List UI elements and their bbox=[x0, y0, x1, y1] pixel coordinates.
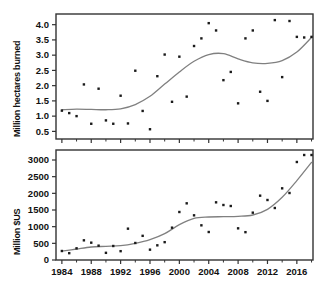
trend-line bbox=[62, 37, 312, 109]
data-point bbox=[141, 110, 143, 112]
data-point bbox=[222, 79, 224, 81]
bottom-panel: 0500100015002000250030001984198819921996… bbox=[0, 148, 329, 302]
data-point bbox=[259, 91, 261, 93]
data-point bbox=[171, 226, 173, 228]
data-point bbox=[127, 122, 129, 124]
data-point bbox=[83, 239, 85, 241]
data-point bbox=[163, 241, 165, 243]
y-tick-label: 2.5 bbox=[36, 65, 50, 76]
data-point bbox=[193, 45, 195, 47]
data-point bbox=[186, 95, 188, 97]
data-point bbox=[178, 211, 180, 213]
data-point bbox=[75, 247, 77, 249]
data-point bbox=[186, 202, 188, 204]
data-point bbox=[281, 187, 283, 189]
y-tick-label: 4.0 bbox=[36, 19, 49, 30]
figure-container: Million hectares burned 0.51.01.52.02.53… bbox=[0, 0, 329, 302]
top-panel-svg: 0.51.01.52.02.53.03.54.0 bbox=[0, 0, 329, 148]
data-point bbox=[222, 204, 224, 206]
data-point bbox=[310, 154, 312, 156]
data-point bbox=[149, 128, 151, 130]
data-point bbox=[97, 244, 99, 246]
data-point bbox=[127, 227, 129, 229]
data-point bbox=[105, 252, 107, 254]
data-point bbox=[252, 29, 254, 31]
data-point bbox=[112, 123, 114, 125]
y-tick-label: 2000 bbox=[28, 188, 49, 199]
x-tick-label: 2004 bbox=[198, 266, 220, 277]
data-point bbox=[200, 37, 202, 39]
data-point bbox=[266, 100, 268, 102]
data-point bbox=[90, 241, 92, 243]
y-tick-label: 1.5 bbox=[36, 95, 50, 106]
data-point bbox=[134, 70, 136, 72]
data-point bbox=[208, 22, 210, 24]
data-point bbox=[274, 19, 276, 21]
data-point bbox=[259, 194, 261, 196]
x-tick-label: 1992 bbox=[110, 266, 131, 277]
data-point bbox=[119, 95, 121, 97]
y-tick-label: 0 bbox=[44, 254, 49, 265]
data-point bbox=[171, 101, 173, 103]
y-tick-label: 500 bbox=[33, 238, 49, 249]
data-point bbox=[303, 154, 305, 156]
y-tick-label: 3.5 bbox=[36, 34, 50, 45]
data-point bbox=[281, 76, 283, 78]
data-point bbox=[230, 71, 232, 73]
bottom-panel-svg: 0500100015002000250030001984198819921996… bbox=[0, 148, 329, 302]
y-tick-label: 1000 bbox=[28, 221, 49, 232]
data-point bbox=[244, 37, 246, 39]
y-tick-label: 1500 bbox=[28, 204, 49, 215]
y-tick-label: 3000 bbox=[28, 154, 49, 165]
x-tick-label: 2016 bbox=[286, 266, 307, 277]
y-tick-label: 1.0 bbox=[36, 110, 49, 121]
data-point bbox=[97, 88, 99, 90]
data-point bbox=[141, 235, 143, 237]
data-point bbox=[237, 102, 239, 104]
data-point bbox=[193, 214, 195, 216]
data-point bbox=[215, 29, 217, 31]
data-point bbox=[83, 83, 85, 85]
data-point bbox=[119, 250, 121, 252]
top-panel: 0.51.01.52.02.53.03.54.0 bbox=[0, 0, 329, 148]
y-tick-label: 2.0 bbox=[36, 80, 49, 91]
data-point bbox=[61, 109, 63, 111]
data-point bbox=[237, 227, 239, 229]
x-tick-label: 2008 bbox=[228, 266, 249, 277]
data-point bbox=[178, 55, 180, 57]
data-point bbox=[208, 231, 210, 233]
data-point bbox=[303, 36, 305, 38]
plot-frame bbox=[56, 14, 313, 139]
data-point bbox=[134, 242, 136, 244]
data-point bbox=[288, 192, 290, 194]
data-point bbox=[296, 161, 298, 163]
x-tick-label: 2012 bbox=[257, 266, 278, 277]
x-tick-label: 1984 bbox=[51, 266, 73, 277]
data-point bbox=[156, 75, 158, 77]
x-tick-label: 2000 bbox=[169, 266, 190, 277]
x-tick-label: 1996 bbox=[139, 266, 160, 277]
y-tick-label: 2500 bbox=[28, 171, 49, 182]
x-tick-label: 1988 bbox=[81, 266, 102, 277]
data-point bbox=[310, 36, 312, 38]
data-point bbox=[296, 36, 298, 38]
y-tick-label: 3.0 bbox=[36, 49, 49, 60]
data-point bbox=[68, 112, 70, 114]
data-point bbox=[215, 201, 217, 203]
data-point bbox=[90, 123, 92, 125]
data-point bbox=[75, 115, 77, 117]
data-point bbox=[200, 224, 202, 226]
data-point bbox=[156, 244, 158, 246]
data-point bbox=[112, 245, 114, 247]
data-point bbox=[288, 20, 290, 22]
data-point bbox=[68, 252, 70, 254]
data-point bbox=[61, 250, 63, 252]
trend-line bbox=[62, 162, 312, 251]
data-point bbox=[149, 248, 151, 250]
data-point bbox=[244, 231, 246, 233]
data-point bbox=[230, 205, 232, 207]
y-tick-label: 0.5 bbox=[36, 126, 50, 137]
data-point bbox=[163, 53, 165, 55]
data-point bbox=[105, 119, 107, 121]
data-point bbox=[266, 199, 268, 201]
